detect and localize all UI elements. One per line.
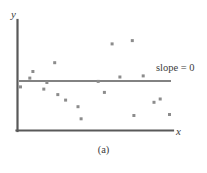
- data-point: [45, 81, 48, 84]
- data-point: [132, 114, 135, 117]
- panel-caption: (a): [0, 145, 207, 156]
- data-point: [103, 91, 106, 94]
- x-axis-label: x: [176, 126, 181, 137]
- data-point: [97, 80, 100, 83]
- data-point: [56, 93, 59, 96]
- data-point: [111, 42, 114, 45]
- data-point: [159, 98, 162, 101]
- data-point: [142, 74, 145, 77]
- data-point: [19, 85, 22, 88]
- data-point: [28, 77, 31, 80]
- data-point: [118, 76, 121, 79]
- data-point: [153, 101, 156, 104]
- y-axis-label: y: [11, 9, 16, 20]
- data-point: [31, 70, 34, 73]
- slope-annotation: slope = 0: [156, 63, 195, 74]
- scatter-plot-figure: y x slope = 0 (a): [0, 0, 207, 173]
- data-point: [131, 39, 134, 42]
- scatter-points: [19, 39, 171, 120]
- data-point: [42, 88, 45, 91]
- data-point: [53, 61, 56, 64]
- data-point: [64, 99, 67, 102]
- data-point: [80, 117, 83, 120]
- data-point: [168, 113, 171, 116]
- data-point: [77, 105, 80, 108]
